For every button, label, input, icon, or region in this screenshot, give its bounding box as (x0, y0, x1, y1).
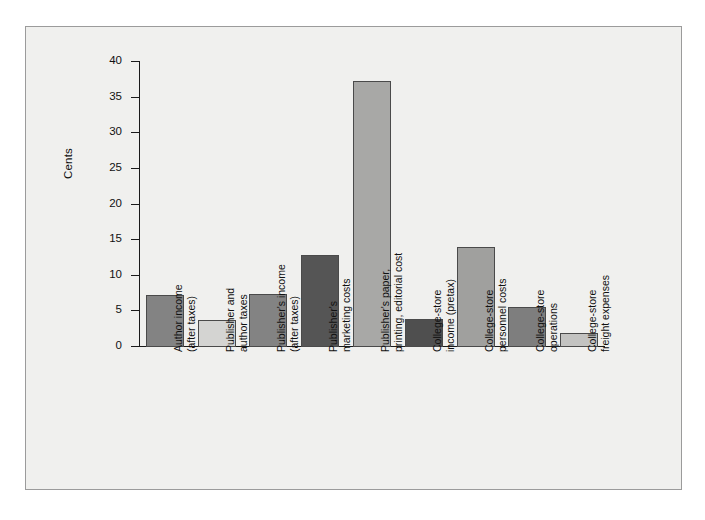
y-axis-tick (131, 310, 139, 311)
plot-area: 0510152025303540 Cents Author income(aft… (26, 27, 683, 491)
x-axis-label-line: author taxes (236, 288, 249, 352)
x-axis-label-line: freight expenses (599, 275, 612, 352)
x-axis-label-line: (after taxes) (184, 284, 197, 352)
x-axis-label-line: College-store (483, 278, 496, 352)
x-axis-label-line: income (pretax) (443, 279, 456, 352)
x-axis-label-line: College-store (534, 290, 547, 352)
y-axis-tick-label: 30 (88, 126, 122, 138)
y-axis-title: Cents (62, 148, 74, 179)
chart-panel: 0510152025303540 Cents Author income(aft… (25, 26, 682, 490)
y-axis-tick-label: 40 (88, 55, 122, 67)
y-axis-tick-label: 0 (88, 340, 122, 352)
y-axis-tick (131, 275, 139, 276)
y-axis-tick (131, 239, 139, 240)
x-axis-label: College-storeoperations (534, 290, 559, 352)
x-axis-label-line: College-store (586, 275, 599, 352)
x-axis-label-line: Publisher's paper, (379, 253, 392, 352)
y-axis-tick-label: 15 (88, 233, 122, 245)
y-axis-tick (131, 132, 139, 133)
y-axis-tick (131, 346, 139, 347)
x-axis-label-line: Publisher's (327, 278, 340, 352)
y-axis-tick (131, 97, 139, 98)
y-axis-tick (131, 204, 139, 205)
figure-root: 0510152025303540 Cents Author income(aft… (0, 0, 705, 520)
x-axis-label-line: Author income (172, 284, 185, 352)
x-axis-label-line: Publisher's income (275, 264, 288, 352)
x-axis-label: Publisher's paper,printing, editorial co… (379, 253, 404, 352)
x-axis-label: Publisher's income(after taxes) (275, 264, 300, 352)
y-axis-tick-label: 10 (88, 269, 122, 281)
y-axis-tick (131, 61, 139, 62)
x-axis-label: Publisher andauthor taxes (224, 288, 249, 352)
x-axis-label-line: marketing costs (340, 278, 353, 352)
y-axis-tick (131, 168, 139, 169)
x-axis-label-line: printing, editorial cost (392, 253, 405, 352)
x-axis-label: College-storeincome (pretax) (431, 279, 456, 352)
x-axis-label: College-storepersonnel costs (483, 278, 508, 352)
y-axis-tick-label: 25 (88, 162, 122, 174)
y-axis-tick-label: 5 (88, 304, 122, 316)
x-axis-label-line: Publisher and (224, 288, 237, 352)
x-axis-label-line: (after taxes) (288, 264, 301, 352)
x-axis-label-line: personnel costs (495, 278, 508, 352)
x-axis-label-line: College-store (431, 279, 444, 352)
x-axis-label-line: operations (547, 290, 560, 352)
x-axis-label: Author income(after taxes) (172, 284, 197, 352)
y-axis-tick-label: 20 (88, 198, 122, 210)
x-axis-label: Publisher'smarketing costs (327, 278, 352, 352)
x-axis-label: College-storefreight expenses (586, 275, 611, 352)
y-axis-tick-label: 35 (88, 91, 122, 103)
